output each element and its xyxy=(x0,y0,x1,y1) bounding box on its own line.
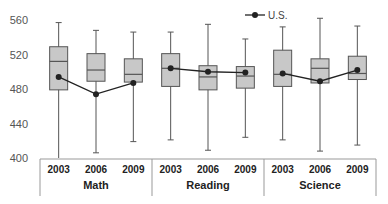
us-data-point xyxy=(205,69,211,75)
y-axis: 400440480520560 xyxy=(10,14,28,164)
box-math-2009 xyxy=(124,32,142,142)
y-tick-label: 560 xyxy=(10,14,28,26)
chart-canvas: 400440480520560200320062009Math200320062… xyxy=(0,0,388,204)
group-label: Reading xyxy=(186,179,229,191)
group-reading: 200320062009Reading xyxy=(160,24,257,191)
us-data-point xyxy=(317,78,323,84)
x-tick-label: 2009 xyxy=(122,164,145,175)
group-science: 200320062009Science xyxy=(272,18,369,191)
x-tick-label: 2006 xyxy=(309,164,332,175)
pisa-boxplot-chart: 400440480520560200320062009Math200320062… xyxy=(0,0,388,204)
y-tick-label: 400 xyxy=(10,152,28,164)
group-label: Science xyxy=(299,179,341,191)
y-tick-label: 520 xyxy=(10,49,28,61)
y-tick-label: 440 xyxy=(10,118,28,130)
box-science-2006 xyxy=(311,18,329,151)
us-data-point xyxy=(168,65,174,71)
us-data-point xyxy=(354,67,360,73)
box-reading-2009 xyxy=(236,39,254,137)
us-data-point xyxy=(242,70,248,76)
group-label: Math xyxy=(83,179,109,191)
us-data-point xyxy=(93,91,99,97)
box-science-2009 xyxy=(348,26,366,145)
group-math: 200320062009Math xyxy=(48,23,145,191)
us-data-point xyxy=(56,74,62,80)
us-data-point xyxy=(130,80,136,86)
legend-label: U.S. xyxy=(268,10,287,21)
box-science-2003 xyxy=(274,27,292,140)
x-tick-label: 2003 xyxy=(272,164,295,175)
y-tick-label: 480 xyxy=(10,83,28,95)
legend: U.S. xyxy=(245,10,287,21)
box-reading-2003 xyxy=(162,32,180,140)
x-tick-label: 2006 xyxy=(85,164,108,175)
x-tick-label: 2003 xyxy=(160,164,183,175)
legend-marker-icon xyxy=(252,12,258,18)
x-tick-label: 2009 xyxy=(234,164,257,175)
us-data-point xyxy=(280,70,286,76)
x-tick-label: 2003 xyxy=(48,164,71,175)
x-tick-label: 2006 xyxy=(197,164,220,175)
x-tick-label: 2009 xyxy=(346,164,369,175)
box-math-2003 xyxy=(50,23,68,158)
box-reading-2006 xyxy=(199,24,217,150)
